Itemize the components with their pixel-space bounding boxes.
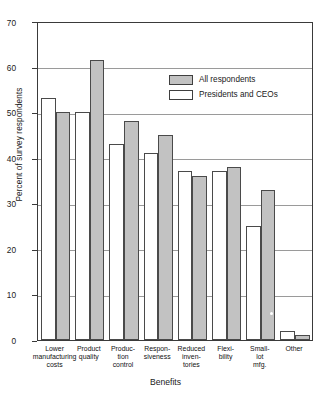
legend-entry-all-respondents: All respondents — [169, 72, 317, 87]
x-tick-label-line: tories — [165, 361, 217, 369]
x-tick-label-7: Other — [268, 345, 320, 353]
y-tick-label-0: 0 — [0, 337, 16, 345]
x-tick-label-line: lot — [234, 353, 286, 361]
legend: All respondents Presidents and CEOs — [169, 72, 317, 102]
y-tick-label-70: 70 — [0, 19, 16, 27]
gridline-60 — [38, 68, 312, 69]
x-axis-title: Benefits — [0, 377, 331, 387]
legend-swatch-gray-icon — [169, 75, 193, 85]
bar-4-gray — [192, 176, 207, 340]
x-tick-label-line: costs — [29, 361, 81, 369]
bar-1-gray — [90, 60, 105, 340]
bar-3-white — [144, 153, 159, 340]
y-tick-label-50: 50 — [0, 109, 16, 117]
y-tick-mark-0 — [32, 341, 37, 342]
scan-speck — [270, 312, 273, 315]
x-tick-label-line: control — [97, 361, 149, 369]
x-tick-label-line: Other — [268, 345, 320, 353]
x-tick-label-line: mfg. — [234, 361, 286, 369]
bar-5-gray — [227, 167, 242, 340]
y-tick-label-60: 60 — [0, 64, 16, 72]
bar-6-gray — [261, 190, 276, 340]
legend-entry-presidents-and-ceos: Presidents and CEOs — [169, 87, 317, 102]
bar-0-gray — [56, 112, 71, 340]
legend-swatch-white-icon — [169, 90, 193, 100]
legend-label-presidents-and-ceos: Presidents and CEOs — [199, 90, 278, 99]
y-tick-label-30: 30 — [0, 200, 16, 208]
plot-area — [37, 22, 313, 341]
y-tick-label-10: 10 — [0, 291, 16, 299]
y-tick-label-20: 20 — [0, 246, 16, 254]
bar-chart: Percent of survey respondents 70 60 50 4… — [0, 0, 331, 395]
bar-4-white — [178, 171, 193, 340]
y-axis-title: Percent of survey respondents — [15, 50, 24, 240]
y-tick-label-40: 40 — [0, 155, 16, 163]
bar-5-white — [212, 171, 227, 340]
bar-6-white — [246, 226, 261, 340]
bar-7-gray — [295, 335, 310, 340]
bar-2-gray — [124, 121, 139, 340]
bar-1-white — [75, 112, 90, 340]
bar-7-white — [280, 331, 295, 340]
bar-2-white — [109, 144, 124, 340]
bar-0-white — [41, 98, 56, 340]
legend-label-all-respondents: All respondents — [199, 75, 255, 84]
bar-3-gray — [158, 135, 173, 340]
